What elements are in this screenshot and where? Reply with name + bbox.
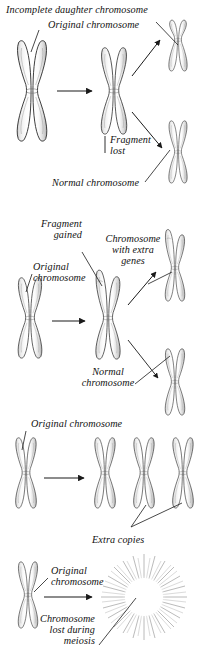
- trisomy-chromosome-shape-2: [134, 438, 155, 508]
- label-extra-genes-line2: with extra: [95, 244, 171, 255]
- label-lost-meiosis-line1: Chromosome: [20, 613, 95, 624]
- leader-original-chromosome-3: [22, 431, 26, 450]
- deletion-panel-graphics: [17, 20, 187, 183]
- trisomy-panel-graphics: [16, 431, 194, 527]
- label-normal-chromosome-2-line1: Normal: [78, 366, 138, 377]
- leader-original-chromosome-2: [26, 274, 32, 292]
- label-lost-meiosis-line2: lost during: [20, 624, 95, 635]
- label-original-chromosome-2-line1: Original: [33, 261, 69, 272]
- trisomy-chromosome-shape-1: [95, 438, 116, 508]
- label-fragment-lost-line1: Fragment: [110, 134, 151, 145]
- label-fragment-lost-line2: lost: [110, 145, 125, 156]
- leader-normal-chromosome-1: [145, 150, 170, 182]
- normal-chromosome-shape-2: [165, 349, 185, 415]
- label-normal-chromosome-1: Normal chromosome: [52, 177, 139, 188]
- label-normal-chromosome-2-line2: chromosome: [78, 377, 138, 388]
- division-arrow-up-2: [128, 272, 156, 305]
- label-original-chromosome-1: Original chromosome: [48, 19, 139, 30]
- division-arrow-up-1: [132, 40, 160, 76]
- leader-chromosome-lost: [99, 598, 136, 645]
- label-original-chromosome-4-line2: chromosome: [51, 576, 104, 587]
- label-fragment-gained-line1: Fragment: [20, 218, 82, 229]
- label-original-chromosome-2-line2: chromosome: [33, 272, 86, 283]
- chromosome-lost-burst-icon: [101, 554, 187, 640]
- label-extra-genes-line1: Chromosome: [95, 233, 171, 244]
- label-lost-meiosis-line3: meiosis: [20, 635, 95, 646]
- figure-canvas: [0, 0, 204, 656]
- leader-normal-chromosome-2: [135, 356, 170, 384]
- label-incomplete-daughter-chromosome: Incomplete daughter chromosome: [6, 4, 148, 15]
- label-original-chromosome-4-line1: Original: [51, 565, 87, 576]
- label-extra-copies: Extra copies: [92, 534, 144, 545]
- trisomy-chromosome-shape-3: [173, 438, 194, 508]
- dividing-chromosome-shape-1: [101, 48, 126, 134]
- incomplete-daughter-chromosome-shape: [169, 20, 187, 71]
- original-chromosome-shape-2: [18, 278, 42, 358]
- original-chromosome-shape-3: [16, 438, 37, 508]
- dividing-chromosome-shape-2: [96, 270, 120, 359]
- label-extra-genes-line3: genes: [95, 255, 171, 266]
- leader-original-chromosome-4: [34, 578, 48, 592]
- label-fragment-gained-line2: gained: [20, 229, 82, 240]
- original-chromosome-shape-1: [17, 41, 47, 141]
- chromosome-abnormality-figure: Incomplete daughter chromosome Original …: [0, 0, 204, 656]
- normal-chromosome-shape-1: [169, 121, 187, 183]
- label-original-chromosome-3: Original chromosome: [31, 418, 122, 429]
